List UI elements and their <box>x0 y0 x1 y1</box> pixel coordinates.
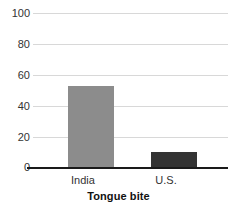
y-tick-label-80: 80 <box>2 39 30 50</box>
x-axis-line <box>27 167 228 169</box>
bar-us[interactable] <box>151 152 197 168</box>
x-tick-label-us: U.S. <box>131 174 201 186</box>
bars-layer <box>33 10 228 168</box>
bar-india[interactable] <box>68 86 114 168</box>
y-tick-label-40: 40 <box>2 101 30 112</box>
bar-chart: 100 80 60 40 20 0 India U.S. Tongue bite <box>0 0 237 207</box>
y-tick-label-60: 60 <box>2 70 30 81</box>
y-tick-label-20: 20 <box>2 132 30 143</box>
y-axis-labels: 100 80 60 40 20 0 <box>0 0 30 207</box>
y-tick-label-0: 0 <box>2 162 30 173</box>
x-axis-title: Tongue bite <box>0 190 237 202</box>
y-tick-label-100: 100 <box>2 8 30 19</box>
x-tick-label-india: India <box>48 174 118 186</box>
